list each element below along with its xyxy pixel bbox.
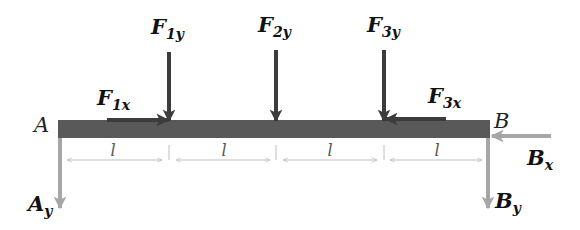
force-f1y-label: F1y [150, 14, 185, 42]
force-f2y-label: F2y [257, 12, 292, 40]
point-a-label: A [32, 113, 49, 137]
dimension-label-4: l [434, 141, 439, 160]
dimension-label-2: l [221, 141, 226, 160]
point-b-label: B [493, 109, 509, 133]
force-f1x-label: F1x [96, 85, 131, 113]
beam [58, 120, 490, 138]
dimension-label-3: l [327, 141, 332, 160]
reaction-by-label: By [494, 188, 522, 216]
force-f3y-label: F3y [366, 12, 401, 40]
dimension-label-1: l [110, 141, 115, 160]
reaction-ay-label: Ay [26, 191, 53, 219]
force-f3x-label: F3x [427, 83, 462, 111]
free-body-diagram: l l l l A B F1y F2y F3y F1x F3x Ay By Bx [0, 0, 580, 230]
dimension-ticks [169, 145, 384, 160]
reaction-bx-label: Bx [526, 145, 554, 173]
